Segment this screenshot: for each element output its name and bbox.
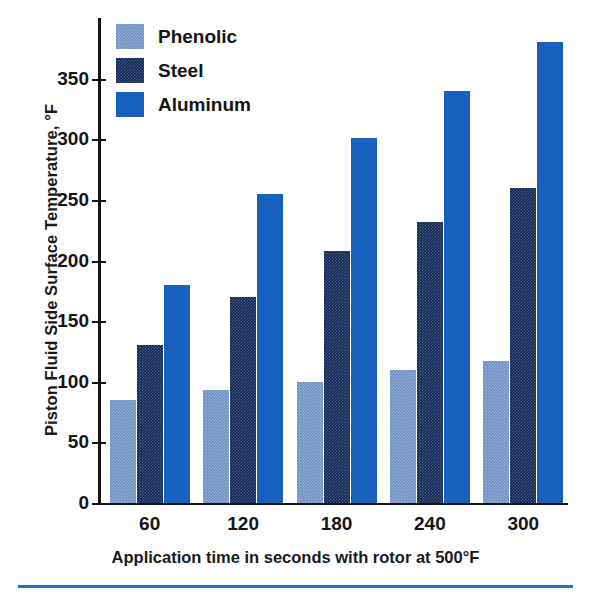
legend-swatch-steel-icon — [116, 58, 144, 83]
y-tick-label: 0 — [78, 492, 89, 514]
bar-steel — [417, 222, 443, 503]
y-tick-label: 150 — [57, 310, 89, 332]
chart-legend: Phenolic Steel Aluminum — [116, 24, 251, 117]
bar-aluminum — [537, 42, 563, 503]
legend-swatch-aluminum-icon — [116, 92, 144, 117]
bar-group — [390, 18, 470, 503]
legend-label-phenolic: Phenolic — [158, 26, 237, 48]
legend-item-phenolic: Phenolic — [116, 24, 251, 49]
bar-steel — [137, 345, 163, 503]
y-tick-label: 50 — [68, 431, 89, 453]
bar-phenolic — [110, 400, 136, 503]
bar-aluminum — [257, 194, 283, 503]
bar-phenolic — [390, 370, 416, 503]
footer-rule — [18, 585, 573, 588]
legend-swatch-phenolic-icon — [116, 24, 144, 49]
x-axis-title: Application time in seconds with rotor a… — [0, 548, 591, 567]
bar-group — [483, 18, 563, 503]
bar-aluminum — [444, 91, 470, 503]
x-axis-line — [98, 503, 568, 505]
x-tick-label: 60 — [139, 513, 160, 535]
x-tick-label: 300 — [507, 513, 539, 535]
bar-phenolic — [483, 361, 509, 503]
y-tick-label: 350 — [57, 68, 89, 90]
y-tick-label: 200 — [57, 250, 89, 272]
y-tick-label: 100 — [57, 371, 89, 393]
chart-figure: Piston Fluid Side Surface Temperature, °… — [0, 0, 591, 596]
y-tick-mark — [92, 503, 106, 505]
legend-item-steel: Steel — [116, 58, 251, 83]
bar-steel — [324, 251, 350, 503]
x-tick-label: 240 — [414, 513, 446, 535]
bar-phenolic — [203, 390, 229, 503]
bar-aluminum — [164, 285, 190, 503]
legend-label-aluminum: Aluminum — [158, 94, 251, 116]
bar-aluminum — [351, 138, 377, 503]
legend-item-aluminum: Aluminum — [116, 92, 251, 117]
bar-phenolic — [297, 382, 323, 503]
x-tick-label: 180 — [321, 513, 353, 535]
x-tick-label: 120 — [227, 513, 259, 535]
bar-steel — [510, 188, 536, 503]
y-tick-label: 250 — [57, 189, 89, 211]
bar-steel — [230, 297, 256, 503]
bar-group — [297, 18, 377, 503]
y-tick-label: 300 — [57, 128, 89, 150]
legend-label-steel: Steel — [158, 60, 203, 82]
